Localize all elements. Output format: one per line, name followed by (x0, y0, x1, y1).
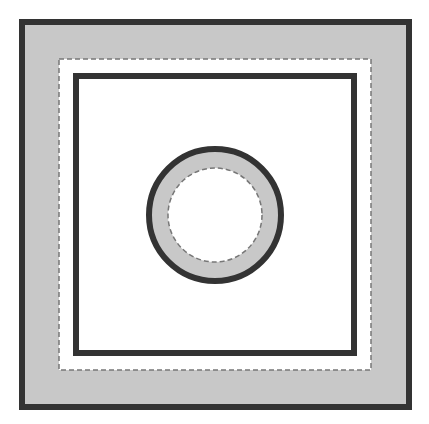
dashed-circle (168, 168, 262, 262)
nested-shapes-diagram (0, 0, 429, 424)
